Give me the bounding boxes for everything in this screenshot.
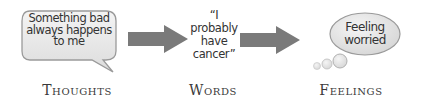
feelings-text: Feeling worried xyxy=(336,21,394,47)
thoughts-label: Thoughts xyxy=(30,82,124,98)
arrow-right-icon xyxy=(128,24,190,54)
arrow-right-icon xyxy=(240,25,302,55)
thoughts-text: Something bad always happens to me xyxy=(22,13,116,48)
words-quote: “I probably have cancer” xyxy=(190,9,238,61)
feelings-line: worried xyxy=(336,34,394,47)
feelings-label: Feelings xyxy=(308,82,394,98)
words-label: Words xyxy=(176,82,250,98)
words-line: cancer” xyxy=(190,48,238,61)
thoughts-line: to me xyxy=(22,36,116,48)
